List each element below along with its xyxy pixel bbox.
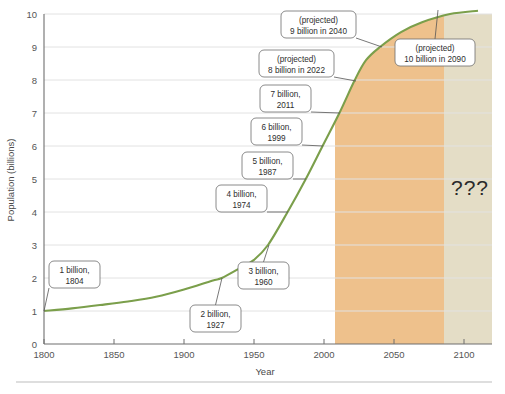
milestone-1-billion-line-1: 1804 [65,277,84,286]
y-tick-label-2: 2 [32,273,37,284]
y-tick-label-7: 7 [32,108,37,119]
y-axis-title: Population (billions) [5,139,16,222]
x-tick-label-2000: 2000 [313,349,334,360]
projection-9-billion-line-1: 9 billion in 2040 [290,27,347,36]
x-tick-label-1900: 1900 [173,349,194,360]
y-tick-label-10: 10 [26,9,37,20]
x-tick-label-2100: 2100 [453,349,474,360]
milestone-2-billion-line-0: 2 billion, [200,310,230,319]
y-tick-label-5: 5 [32,174,37,185]
x-tick-label-1800: 1800 [33,349,54,360]
question-marks-label: ??? [451,176,489,199]
x-tick-label-2050: 2050 [383,349,404,360]
milestone-3-billion-line-1: 1960 [254,278,273,287]
y-tick-label-6: 6 [32,141,37,152]
projection-8-billion-line-1: 8 billion in 2022 [268,66,325,75]
milestone-3-billion-line-0: 3 billion, [248,267,278,276]
projection-10-billion-line-1: 10 billion in 2090 [404,55,466,64]
y-tick-label-3: 3 [32,240,37,251]
population-growth-chart: 1800185019001950200020502100 01234567891… [0,0,505,394]
milestone-6-billion-line-1: 1999 [267,134,286,143]
milestone-4-billion-line-1: 1974 [232,201,251,210]
x-tick-label-1850: 1850 [103,349,124,360]
y-tick-label-4: 4 [32,207,37,218]
milestone-1-billion-line-0: 1 billion, [59,266,89,275]
y-tick-label-0: 0 [32,339,37,350]
milestone-6-billion-line-0: 6 billion, [261,123,291,132]
milestone-7-billion-line-1: 2011 [277,101,295,110]
projection-9-billion-line-0: (projected) [299,16,338,25]
population-growth-figure: 1800185019001950200020502100 01234567891… [0,0,505,394]
projection-10-billion-line-0: (projected) [415,44,454,53]
milestone-5-billion-line-0: 5 billion, [252,157,282,166]
milestone-7-billion-line-0: 7 billion, [270,90,300,99]
projection-8-billion-line-0: (projected) [277,55,316,64]
y-tick-label-9: 9 [32,42,37,53]
y-tick-label-1: 1 [32,306,37,317]
milestone-4-billion-line-0: 4 billion, [226,190,256,199]
milestone-5-billion-line-1: 1987 [258,168,277,177]
y-tick-label-8: 8 [32,75,37,86]
milestone-2-billion-line-1: 1927 [206,321,225,330]
x-axis-title: Year [255,366,274,377]
x-tick-label-1950: 1950 [243,349,264,360]
